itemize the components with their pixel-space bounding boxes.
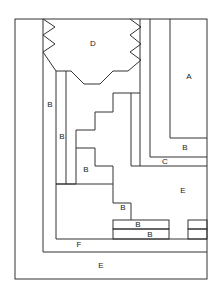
b-bar-1: [113, 220, 169, 229]
outer-frame: [15, 19, 207, 279]
f-band-boundary: [56, 157, 207, 239]
label-b-right: B: [182, 143, 187, 152]
label-e-bottom: E: [98, 261, 103, 270]
label-b-low: B: [120, 203, 125, 212]
staircase-outline: [56, 93, 140, 184]
label-b-left-inner: B: [59, 132, 64, 141]
label-c: C: [162, 157, 168, 166]
small-box-1: [188, 220, 207, 229]
label-b-bar2: B: [147, 230, 152, 239]
label-b-bar1: B: [135, 220, 140, 229]
label-a: A: [186, 72, 192, 81]
b-low-outline: [113, 184, 131, 220]
b-bar-2: [113, 229, 169, 239]
e-band-boundary: [43, 19, 207, 252]
label-b-left-outer: B: [47, 100, 52, 109]
label-f: F: [77, 240, 82, 249]
region-diagram: D A B B B B C E B B B F E: [0, 0, 219, 294]
stair-b-box: [76, 148, 113, 184]
d-region-outline: [43, 19, 141, 84]
label-e-mid: E: [180, 186, 185, 195]
small-box-2: [188, 229, 207, 239]
label-b-stair: B: [83, 165, 88, 174]
label-d: D: [90, 39, 96, 48]
